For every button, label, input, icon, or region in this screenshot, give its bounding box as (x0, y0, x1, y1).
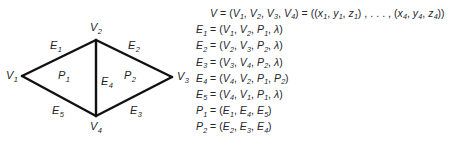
equation-subscript: 5 (203, 93, 207, 102)
equation-subscript: 1 (339, 12, 343, 21)
equation-polygon-2: P2 = (E2, E3, E4) (196, 119, 455, 135)
equation-token: V (240, 56, 247, 68)
equation-token: E (223, 104, 230, 116)
polygon-label-P2: P2 (124, 70, 136, 82)
equation-token: ) , . . . , ( (358, 7, 398, 19)
equation-token: = ( (207, 88, 223, 100)
equation-token: V (233, 7, 240, 19)
equation-edge-1: E1 = (V1, V2, P1, λ) (196, 22, 455, 38)
equation-subscript: 1 (203, 29, 207, 38)
vertex-label-V4: V4 (90, 121, 102, 133)
equation-token: P (257, 72, 264, 84)
equation-token: V (223, 88, 230, 100)
equation-token: z (428, 7, 433, 19)
equation-subscript: 3 (230, 61, 234, 70)
equation-token: E (196, 23, 203, 35)
mesh-edge-lines (22, 40, 172, 116)
equation-token: V (223, 23, 230, 35)
edge-label-E3: E3 (130, 105, 142, 117)
equation-subscript: 1 (264, 29, 268, 38)
equation-token: ) = (( (295, 7, 318, 19)
equation-subscript: 3 (247, 126, 251, 135)
equation-edge-3: E3 = (V3, V4, P2, λ) (196, 55, 455, 71)
equation-token: V (223, 72, 230, 84)
equation-token: y (333, 7, 338, 19)
equation-token: = ( (207, 120, 223, 132)
equation-subscript: 4 (403, 12, 407, 21)
equation-subscript: 2 (281, 77, 285, 86)
equation-token: ) (279, 23, 283, 35)
equation-token: V (267, 7, 274, 19)
polygon-label-P1: P1 (58, 70, 70, 82)
equation-subscript: 1 (323, 12, 327, 21)
equation-subscript: 4 (230, 93, 234, 102)
equation-token: = ( (207, 104, 223, 116)
equation-token: = ( (207, 56, 223, 68)
equation-token: V (240, 39, 247, 51)
equation-subscript: 1 (264, 77, 268, 86)
equation-token: E (223, 120, 230, 132)
edge-label-E1: E1 (50, 40, 62, 52)
equation-edge-2: E2 = (V2, V3, P2, λ) (196, 38, 455, 54)
equation-subscript: 1 (264, 93, 268, 102)
equation-subscript: 2 (247, 77, 251, 86)
mesh-diagram: V1 V2 V3 V4 E1 E2 E3 E4 E5 P1 P2 (0, 0, 200, 164)
equation-token: E (196, 39, 203, 51)
equation-token: V (250, 7, 257, 19)
equation-token: P (257, 39, 264, 51)
equation-token: V (240, 72, 247, 84)
equation-subscript: 4 (291, 12, 295, 21)
equation-list: V = (V1, V2, V3, V4) = ((x1, y1, z1) , .… (196, 6, 455, 136)
equation-subscript: 4 (203, 77, 207, 86)
equation-subscript: 2 (230, 126, 234, 135)
equation-subscript: 5 (264, 110, 268, 119)
vertex-label-V1: V1 (6, 70, 18, 82)
equation-subscript: 4 (434, 12, 438, 21)
equation-token: E (196, 72, 203, 84)
equation-token: V (210, 7, 217, 19)
equation-token: E (240, 104, 247, 116)
equation-token: z (348, 7, 353, 19)
equation-subscript: 2 (257, 12, 261, 21)
equation-token: ) (268, 104, 272, 116)
equation-token: E (196, 88, 203, 100)
equation-token: E (257, 104, 264, 116)
equation-subscript: 2 (247, 29, 251, 38)
edge-label-E4: E4 (101, 76, 113, 88)
equation-subscript: 3 (274, 12, 278, 21)
equation-token: = ( (217, 7, 233, 19)
equation-subscript: 2 (264, 61, 268, 70)
edge-label-E5: E5 (52, 105, 64, 117)
equation-subscript: 2 (203, 126, 207, 135)
equation-token: = ( (207, 23, 223, 35)
equation-token: V (240, 23, 247, 35)
equation-subscript: 1 (230, 29, 234, 38)
equation-subscript: 1 (240, 12, 244, 21)
equation-subscript: 1 (354, 12, 358, 21)
edge-label-E2: E2 (128, 40, 140, 52)
equation-token: V (284, 7, 291, 19)
equation-token: V (223, 56, 230, 68)
equation-token: V (240, 88, 247, 100)
vertex-label-V3: V3 (177, 71, 189, 83)
equation-token: E (240, 120, 247, 132)
equation-edge-4: E4 = (V4, V2, P1, P2) (196, 71, 455, 87)
equation-token: E (196, 56, 203, 68)
equation-subscript: 3 (203, 61, 207, 70)
equation-edge-5: E5 = (V4, V1, P1, λ) (196, 87, 455, 103)
equation-token: V (223, 39, 230, 51)
equation-subscript: 1 (230, 110, 234, 119)
equation-token: P (257, 88, 264, 100)
equation-subscript: 1 (203, 110, 207, 119)
equation-token: = ( (207, 39, 223, 51)
equation-subscript: 1 (247, 93, 251, 102)
equation-token: P (196, 104, 203, 116)
equation-token: E (257, 120, 264, 132)
equation-subscript: 4 (264, 126, 268, 135)
equation-token: )) (438, 7, 445, 19)
equation-polygon-1: P1 = (E1, E4, E5) (196, 103, 455, 119)
equation-token: P (274, 72, 281, 84)
equation-vertex-set: V = (V1, V2, V3, V4) = ((x1, y1, z1) , .… (196, 6, 455, 22)
equation-token: ) (285, 72, 289, 84)
equation-token: ) (279, 39, 283, 51)
